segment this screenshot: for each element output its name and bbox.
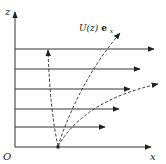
- z-axis-label: z: [4, 6, 11, 17]
- trajectory-vertical: [48, 50, 58, 146]
- origin-label: O: [3, 151, 11, 162]
- trajectory-shallow: [58, 84, 158, 146]
- velocity-label: U(z) e x: [79, 23, 114, 34]
- source-point: [57, 146, 60, 149]
- flow-diagram: z x O U(z) e x: [0, 0, 166, 164]
- x-axis-label: x: [150, 151, 156, 162]
